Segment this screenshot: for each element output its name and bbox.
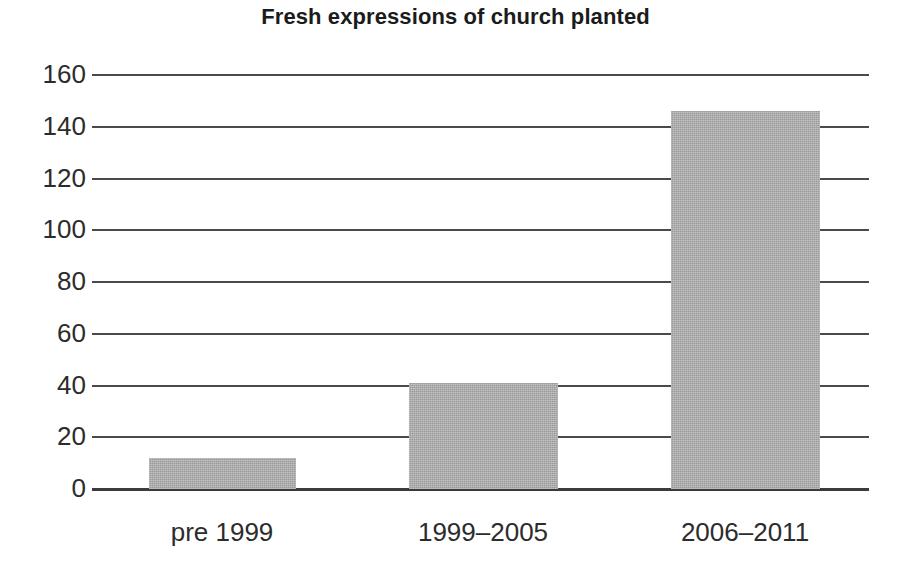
x-tick-label-3: 2006–2011 bbox=[681, 516, 809, 548]
bars-layer bbox=[0, 0, 911, 572]
x-tick-label-2: 1999–2005 bbox=[418, 516, 548, 548]
bar-3 bbox=[671, 111, 820, 489]
bar-2 bbox=[409, 383, 558, 489]
x-axis-category-labels: pre 19991999–20052006–2011 bbox=[0, 516, 911, 556]
bar-chart: Fresh expressions of church planted 0204… bbox=[0, 0, 911, 572]
bar-1 bbox=[149, 458, 296, 489]
x-tick-label-1: pre 1999 bbox=[171, 516, 274, 548]
